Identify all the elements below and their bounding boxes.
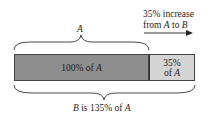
bar-main-label: 100% of A <box>61 63 102 73</box>
arrow-head-icon <box>186 30 193 36</box>
top-brace-label: A <box>77 24 83 34</box>
annotation-line2: from A to B <box>143 20 188 30</box>
annotation-line1: 35% increase <box>143 9 194 19</box>
bar-increase-line2: of A <box>164 68 180 78</box>
bar-35-percent: 35% of A <box>149 54 195 81</box>
bottom-brace-icon <box>14 85 195 100</box>
bar-100-percent: 100% of A <box>14 54 149 81</box>
top-brace-icon <box>14 35 149 50</box>
bar-increase-line1: 35% <box>163 58 180 68</box>
bottom-brace-label: B is 135% of A <box>73 103 131 113</box>
